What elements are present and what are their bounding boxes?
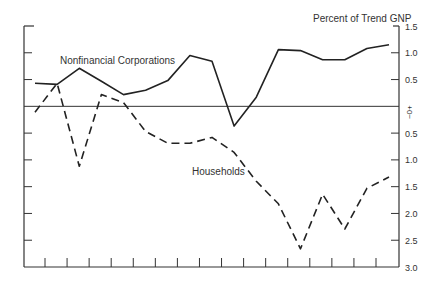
y-tick-label: 1.5 (405, 182, 418, 192)
label-nonfinancial-corporations: Nonfinancial Corporations (60, 55, 175, 66)
y-tick-label: 2.0 (405, 209, 418, 219)
y-tick-label: 0.5 (405, 75, 418, 85)
zero-tick-label: +0− (405, 105, 414, 119)
y-tick-label: 1.0 (405, 155, 418, 165)
y-tick-label: 1.0 (405, 48, 418, 58)
series-lines (35, 45, 389, 249)
y-axis-title: Percent of Trend GNP (313, 13, 412, 24)
y-tick-label: 3.0 (405, 263, 418, 273)
label-households: Households (192, 166, 245, 177)
y-tick-label: 0.5 (405, 129, 418, 139)
y-tick-label: 2.5 (405, 236, 418, 246)
chart: 1.51.00.5+0−0.51.01.52.02.53.0 Percent o… (0, 0, 437, 287)
